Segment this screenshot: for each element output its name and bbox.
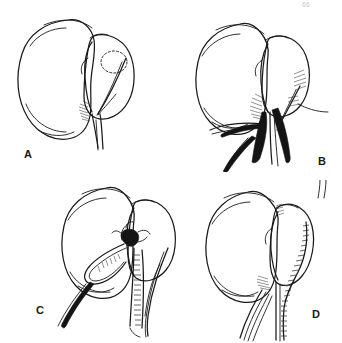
page-number-artifact: 66 [302,0,324,9]
suture-closure-line [283,222,306,340]
lobe-lower-border [298,104,328,112]
panel-c: C [50,176,205,341]
organ-upper-contour [30,28,66,46]
vessel-strand-outer [147,248,168,336]
organ-upper-contour [212,202,250,224]
incision-marking-dashed-circle [101,51,127,73]
organ-upper-contour [68,198,106,220]
panel-c-label: C [36,304,44,316]
organ-upper-contour [202,34,240,56]
pedicle-tip-left [130,328,140,337]
pedicle-edge-right [142,250,144,328]
panel-a: A [8,8,158,153]
suture-strand-center [270,112,272,164]
organ-main-body [196,23,268,134]
surgical-knot [112,222,150,246]
vessel-from-lobe [278,86,300,128]
organ-lower-contour [214,276,254,296]
panel-a-drawing [8,8,158,153]
running-suture-stitches [281,225,309,336]
panel-d: D [196,180,336,342]
detached-suture-mark-1 [318,180,320,198]
detached-suture-mark-2 [324,180,326,198]
figure-canvas: 66 [0,0,342,343]
organ-main-body [62,187,134,298]
panel-b: B [182,12,337,172]
panel-a-label: A [24,148,32,160]
lobe-vessel-inner [97,62,122,115]
panel-b-drawing [182,12,337,172]
organ-main-body [206,191,278,302]
vessel-strand-3 [248,294,269,341]
running-stitch-line [134,255,141,325]
vessel-strand-4 [253,296,272,341]
lower-hilum-shading [257,276,271,290]
organ-lobe [262,36,309,117]
panel-c-drawing [50,176,205,341]
ligature-strand-right [272,108,290,163]
panel-b-label: B [318,155,326,167]
suture-tail-outline-left [58,284,86,326]
organ-main-body [18,20,95,140]
organ-lower-contour [26,104,66,132]
panel-d-label: D [312,308,320,320]
vessel-from-lobe-2 [277,90,296,130]
ligature-tail-descending [223,136,256,172]
